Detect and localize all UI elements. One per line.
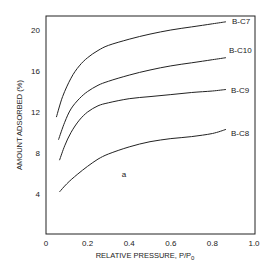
y-axis-label: AMOUNT ADSORBED (%): [15, 80, 24, 170]
series-curves: [56, 22, 226, 192]
x-axis-label-subscript: 0: [191, 255, 195, 261]
x-axis-label-text: RELATIVE PRESSURE, P/P: [96, 251, 191, 260]
series-labels: B-C7B-C10B-C9B-C8: [229, 17, 252, 139]
x-axis-label: RELATIVE PRESSURE, P/P0: [96, 251, 195, 261]
y-tick-label: 16: [31, 67, 40, 76]
y-axis-ticks: 48121620: [31, 26, 40, 199]
series-curve-b-c8: [60, 129, 226, 192]
x-tick-label: 0.6: [165, 239, 177, 248]
series-curve-b-c9: [60, 90, 226, 161]
series-label-b-c10: B-C10: [229, 46, 252, 55]
series-label-b-c8: B-C8: [231, 129, 250, 138]
x-tick-label: 0.8: [207, 239, 219, 248]
series-label-b-c9: B-C9: [231, 86, 250, 95]
x-axis-ticks: 00.20.40.60.81.0: [44, 239, 260, 248]
y-tick-label: 4: [36, 190, 41, 199]
series-curve-b-c10: [59, 58, 226, 140]
y-tick-label: 8: [36, 149, 41, 158]
y-tick-label: 20: [31, 26, 40, 35]
adsorption-chart: 00.20.40.60.81.0 48121620 B-C7B-C10B-C9B…: [0, 0, 272, 270]
series-label-b-c7: B-C7: [232, 17, 251, 26]
y-tick-label: 12: [31, 108, 40, 117]
x-tick-label: 1.0: [248, 239, 260, 248]
x-tick-label: 0.4: [124, 239, 136, 248]
panel-label: a: [122, 170, 127, 179]
plot-frame: [46, 16, 255, 234]
x-tick-label: 0: [44, 239, 49, 248]
x-tick-label: 0.2: [82, 239, 94, 248]
series-curve-b-c7: [56, 22, 226, 117]
